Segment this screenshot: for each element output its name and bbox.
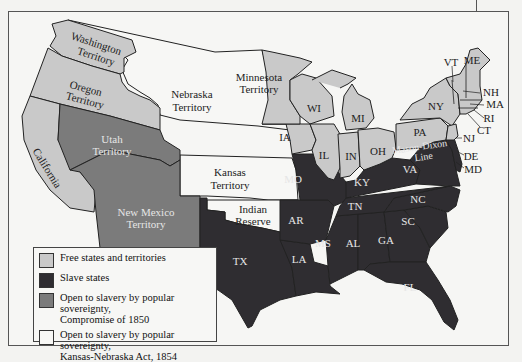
label-tn: TN [348,200,363,212]
legend-item-slave: Slave states [39,272,212,288]
label-nebraska-2: Territory [173,101,212,113]
label-kansas-2: Territory [211,179,250,191]
label-la: LA [292,253,307,265]
label-oh: OH [370,145,386,157]
label-new-mexico: New Mexico [117,206,175,218]
label-nh: NH [483,86,499,98]
label-minnesota: Minnesota [236,71,283,83]
swatch-compromise-1850 [39,293,54,308]
legend-label-kansas-nebraska-2: Kansas-Nebraska Act, 1854 [60,351,212,362]
label-new-mexico-2: Territory [127,218,166,230]
label-de: DE [464,150,479,162]
label-me: ME [464,54,481,66]
label-nc: NC [410,193,425,205]
label-ny: NY [428,100,444,112]
legend-label-compromise-1850: Open to slavery by popular sovereignty, [60,292,212,314]
legend-label-compromise-1850-2: Compromise of 1850 [60,314,212,325]
label-wi: WI [307,102,321,114]
label-ia: IA [279,131,291,143]
label-sc: SC [401,215,414,227]
label-al: AL [346,237,361,249]
swatch-kansas-nebraska [39,330,54,345]
label-pa: PA [413,126,426,138]
map-legend: Free states and territories Slave states… [33,247,217,342]
label-ct: CT [477,124,491,136]
label-indian-2: Reserve [235,215,271,227]
legend-label-kansas-nebraska: Open to slavery by popular sovereignty, [60,329,212,351]
label-minnesota-2: Territory [240,83,279,95]
legend-item-kansas-nebraska: Open to slavery by popular sovereignty, … [39,329,212,362]
legend-item-compromise-1850: Open to slavery by popular sovereignty, … [39,292,212,325]
label-il: IL [319,149,330,161]
region-florida [364,262,458,330]
label-fl: FL [404,281,417,293]
region-new-jersey [446,124,458,140]
label-ar: AR [288,214,304,226]
label-vt: VT [444,56,459,68]
legend-item-free: Free states and territories [39,252,212,268]
label-va: VA [403,163,418,175]
label-mi: MI [351,112,365,124]
label-nj: NJ [463,132,476,144]
legend-label-free: Free states and territories [60,252,166,263]
ri-leader [474,110,484,118]
label-utah: Utah [101,133,123,145]
label-ms: MS [315,237,331,249]
region-mississippi [326,214,358,284]
swatch-slave [39,273,54,288]
label-ma: MA [486,98,504,110]
label-in: IN [345,150,357,162]
label-kansas: Kansas [214,166,246,178]
swatch-free [39,253,54,268]
label-md: MD [464,163,482,175]
label-utah-2: Territory [93,145,132,157]
label-ky: KY [354,176,370,188]
label-mo: MO [284,173,302,185]
legend-label-slave: Slave states [60,272,109,283]
label-nebraska: Nebraska [171,88,213,100]
label-ri: RI [484,112,495,124]
label-ga: GA [378,234,394,246]
label-indian: Indian [239,203,268,215]
label-tx: TX [233,255,248,267]
